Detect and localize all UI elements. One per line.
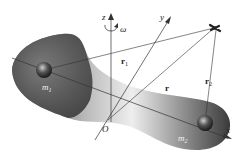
x-axis-label: x bbox=[225, 125, 230, 135]
satellite-icon bbox=[210, 25, 220, 31]
origin-label: O bbox=[102, 124, 109, 134]
mass-m1-ball bbox=[36, 62, 52, 78]
r-label: r bbox=[165, 83, 169, 93]
left-lobe-shade bbox=[12, 34, 93, 118]
z-axis-label: z bbox=[101, 12, 106, 22]
r2-label: r2 bbox=[205, 76, 212, 87]
rotation-arrowhead-icon bbox=[114, 23, 118, 28]
y-axis-arrow-icon bbox=[165, 16, 171, 24]
rotating-body-diagram: x y z ω r1 r r2 m1 m2 O bbox=[0, 0, 241, 161]
z-axis-arrow-icon bbox=[108, 13, 114, 20]
mass-m2-ball bbox=[197, 115, 213, 131]
omega-label: ω bbox=[120, 24, 126, 34]
y-axis-label: y bbox=[159, 12, 164, 22]
r1-label: r1 bbox=[121, 56, 128, 67]
